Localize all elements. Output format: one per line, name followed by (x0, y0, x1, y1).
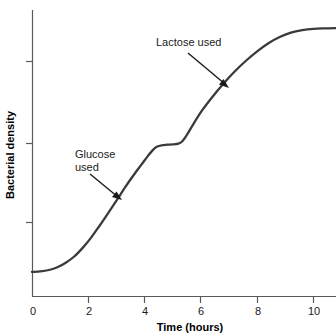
x-tick-label-2: 2 (86, 305, 92, 317)
diauxic-growth-chart: 0 2 4 6 8 10 Lactose used Glucose used T… (0, 0, 336, 336)
glucose-annotation-label-line1: Glucose (75, 148, 115, 160)
x-tick-label-8: 8 (255, 305, 261, 317)
x-tick-label-10: 10 (308, 305, 320, 317)
x-axis-title: Time (hours) (157, 321, 224, 333)
x-tick-label-4: 4 (142, 305, 148, 317)
lactose-annotation-label: Lactose used (156, 36, 221, 48)
x-tick-label-6: 6 (198, 305, 204, 317)
chart-background (0, 0, 336, 336)
y-axis-title: Bacterial density (4, 110, 16, 199)
chart-figure: 0 2 4 6 8 10 Lactose used Glucose used T… (0, 0, 336, 336)
glucose-annotation-label-line2: used (75, 161, 99, 173)
x-tick-label-0: 0 (30, 305, 36, 317)
